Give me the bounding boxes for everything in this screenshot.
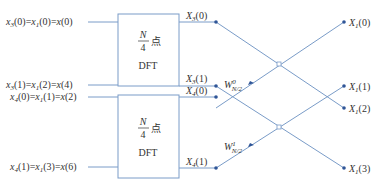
node-dot	[342, 20, 346, 24]
butterfly-diagram: x3(0)=x1(0)=x(0) x3(1)=x1(2)=x(4) x4(0)=…	[0, 0, 383, 189]
box-upper-unit: 点	[151, 36, 161, 47]
intermediate-label-2: X4(0)	[185, 85, 207, 98]
intermediate-label-3: X4(1)	[185, 156, 207, 169]
dft-box-lower	[118, 95, 179, 178]
box-lower-title: DFT	[139, 147, 158, 158]
arrow-icon	[248, 143, 254, 147]
box-upper-denominator: 4	[141, 42, 146, 53]
box-upper-title: DFT	[139, 60, 158, 71]
node-dot	[214, 20, 218, 24]
box-lower-numerator: N	[139, 116, 148, 127]
input-label-3: x4(1)=x1(3)=x(6)	[9, 161, 77, 174]
node-dot	[214, 166, 218, 170]
box-upper-numerator: N	[139, 29, 148, 40]
node-dot	[342, 84, 346, 88]
node-dot	[342, 166, 346, 170]
output-label-3: X1(3)	[348, 163, 370, 176]
node-dot	[214, 95, 218, 99]
output-label-1: X1(1)	[348, 81, 370, 94]
output-label-2: X1(2)	[348, 103, 370, 116]
crossing-node-upper	[277, 62, 281, 66]
box-lower-denominator: 4	[141, 129, 146, 140]
input-label-2: x4(0)=x1(1)=x(2)	[9, 91, 77, 104]
twiddle-label-0: W0N/2	[224, 78, 242, 93]
node-dot	[214, 84, 218, 88]
box-lower-unit: 点	[151, 123, 161, 134]
intermediate-label-0: X3(0)	[185, 10, 207, 23]
twiddle-label-1: W1N/2	[224, 140, 242, 155]
output-label-0: X1(0)	[348, 17, 370, 30]
crossing-node-lower	[277, 125, 281, 129]
input-label-0: x3(0)=x1(0)=x(0)	[5, 16, 73, 29]
dft-box-upper	[118, 14, 179, 86]
node-dot	[342, 106, 346, 110]
